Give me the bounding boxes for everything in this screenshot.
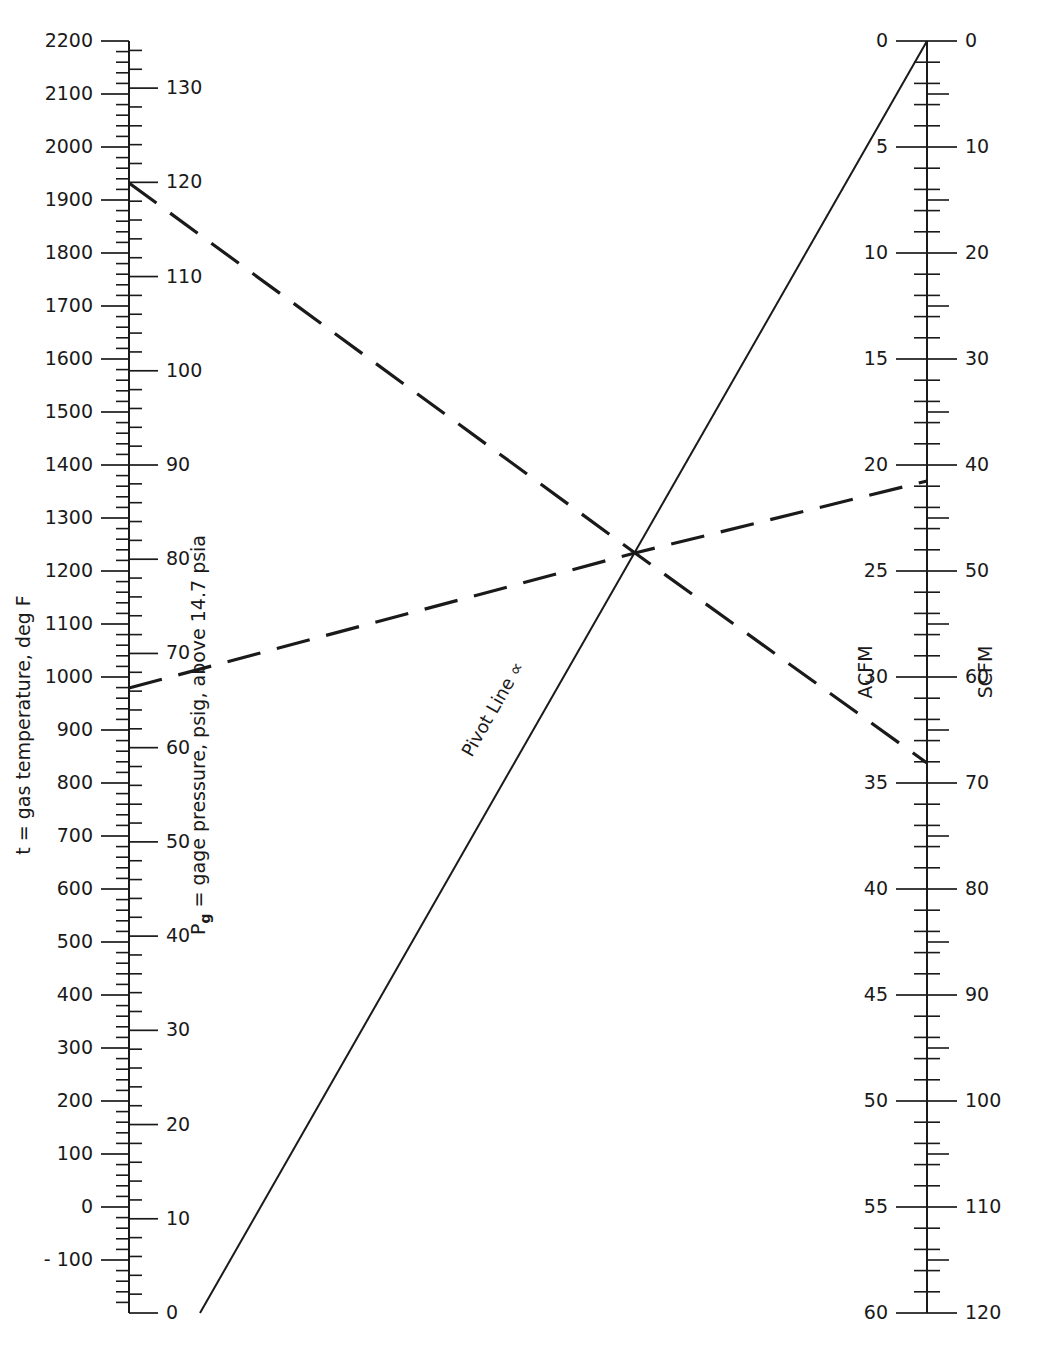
temp-tick-label: 600	[57, 877, 93, 899]
temp-tick-label: 1700	[45, 294, 93, 316]
temp-tick-label: 400	[57, 983, 93, 1005]
scfm-tick-label: 50	[965, 559, 989, 581]
temp-tick-label: 0	[81, 1195, 93, 1217]
temp-tick-label: 1100	[45, 612, 93, 634]
press-tick-label: 130	[166, 76, 202, 98]
acfm-tick-label: 35	[864, 771, 888, 793]
temp-tick-label: 500	[57, 930, 93, 952]
pressure-axis-label: Pg = gage pressure, psig, above 14.7 psi…	[187, 535, 213, 935]
scfm-tick-label: 0	[965, 29, 977, 51]
press-tick-label: 0	[166, 1301, 178, 1323]
temp-tick-label: 2100	[45, 82, 93, 104]
temp-tick-label: 2200	[45, 29, 93, 51]
press-tick-label: 110	[166, 265, 202, 287]
nomogram-figure: 2200210020001900180017001600150014001300…	[0, 0, 1038, 1351]
temp-tick-label: - 100	[44, 1248, 93, 1270]
construction-line-2	[129, 481, 927, 688]
press-tick-label: 90	[166, 453, 190, 475]
temp-tick-label: 800	[57, 771, 93, 793]
acfm-tick-label: 55	[864, 1195, 888, 1217]
acfm-tick-label: 5	[876, 135, 888, 157]
acfm-tick-label: 40	[864, 877, 888, 899]
press-tick-label: 100	[166, 359, 202, 381]
temp-tick-label: 1600	[45, 347, 93, 369]
temp-tick-label: 1800	[45, 241, 93, 263]
pressure-axis-label-text: Pg = gage pressure, psig, above 14.7 psi…	[187, 535, 213, 935]
scfm-tick-label: 40	[965, 453, 989, 475]
pivot-line-label-text: Pivot Line ∝	[457, 658, 528, 760]
temperature-axis-label: t = gas temperature, deg F	[12, 595, 34, 854]
scfm-tick-label: 100	[965, 1089, 1001, 1111]
acfm-tick-label: 15	[864, 347, 888, 369]
temp-tick-label: 1500	[45, 400, 93, 422]
scfm-tick-label: 30	[965, 347, 989, 369]
acfm-tick-label: 25	[864, 559, 888, 581]
scfm-tick-label: 120	[965, 1301, 1001, 1323]
pivot-line	[200, 41, 927, 1313]
temp-tick-label: 1200	[45, 559, 93, 581]
construction-line-1	[129, 183, 927, 763]
scfm-tick-label: 110	[965, 1195, 1001, 1217]
scfm-axis-label: SCFM	[974, 646, 996, 699]
nomogram-canvas: 2200210020001900180017001600150014001300…	[0, 0, 1038, 1351]
acfm-tick-label: 20	[864, 453, 888, 475]
temp-tick-label: 1900	[45, 188, 93, 210]
scfm-tick-label: 10	[965, 135, 989, 157]
temp-tick-label: 1300	[45, 506, 93, 528]
temp-tick-label: 2000	[45, 135, 93, 157]
scfm-tick-label: 70	[965, 771, 989, 793]
acfm-tick-label: 45	[864, 983, 888, 1005]
acfm-tick-label: 60	[864, 1301, 888, 1323]
press-tick-label: 20	[166, 1113, 190, 1135]
temp-tick-label: 200	[57, 1089, 93, 1111]
scfm-tick-label: 80	[965, 877, 989, 899]
temp-tick-label: 300	[57, 1036, 93, 1058]
scfm-tick-label: 90	[965, 983, 989, 1005]
acfm-axis-label: ACFM	[854, 645, 876, 698]
acfm-tick-label: 10	[864, 241, 888, 263]
press-tick-label: 120	[166, 170, 202, 192]
press-tick-label: 30	[166, 1018, 190, 1040]
temp-tick-label: 1000	[45, 665, 93, 687]
temp-tick-label: 100	[57, 1142, 93, 1164]
temp-tick-label: 1400	[45, 453, 93, 475]
press-tick-label: 10	[166, 1207, 190, 1229]
temp-tick-label: 900	[57, 718, 93, 740]
acfm-tick-label: 0	[876, 29, 888, 51]
acfm-tick-label: 50	[864, 1089, 888, 1111]
scfm-tick-label: 20	[965, 241, 989, 263]
temp-tick-label: 700	[57, 824, 93, 846]
pivot-line-label: Pivot Line ∝	[457, 658, 528, 760]
